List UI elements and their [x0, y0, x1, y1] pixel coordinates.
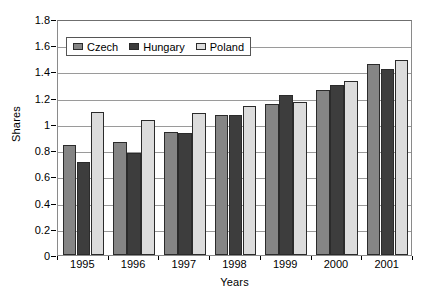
x-axis-tick-mark: [260, 256, 261, 260]
y-axis-tick-label: 1: [26, 120, 50, 130]
x-axis-tick-mark: [412, 256, 413, 260]
x-axis-tick-labels: 1995199619971998199920002001: [57, 258, 412, 274]
x-axis-tick-mark: [57, 256, 58, 260]
y-axis-tick-label: 0: [26, 251, 50, 261]
x-axis-tick-label: 1996: [113, 258, 153, 270]
x-axis-tick-label: 2001: [367, 258, 407, 270]
x-axis-tick-mark: [108, 256, 109, 260]
bar-hungary-1998: [229, 115, 243, 255]
x-axis-tick-mark: [361, 256, 362, 260]
x-axis-tick-label: 1999: [265, 258, 305, 270]
y-axis-tick-label: 1.8: [26, 15, 50, 25]
legend-label: Czech: [87, 41, 118, 53]
bar-hungary-1999: [279, 95, 293, 255]
x-axis-tick-label: 1997: [164, 258, 204, 270]
bar-poland-2001: [395, 60, 409, 255]
y-axis-tick-mark: [51, 20, 56, 21]
bar-czech-2000: [316, 90, 330, 255]
y-axis-tick-mark: [51, 230, 56, 231]
y-axis-tick-label: 0.2: [26, 225, 50, 235]
legend-item-poland: Poland: [196, 41, 244, 53]
legend-swatch-icon: [196, 43, 206, 50]
bar-chart: Shares 00.20.40.60.811.21.41.61.8 199519…: [0, 0, 428, 301]
bar-poland-2000: [344, 81, 358, 255]
y-axis-tick-label: 1.2: [26, 94, 50, 104]
x-axis-tick-label: 1995: [62, 258, 102, 270]
bar-hungary-2000: [330, 85, 344, 255]
y-axis-tick-label: 1.6: [26, 41, 50, 51]
y-axis-title: Shares: [10, 94, 22, 154]
bar-czech-1996: [113, 142, 127, 255]
bar-poland-1995: [91, 112, 105, 255]
y-axis-tick-label: 0.6: [26, 172, 50, 182]
x-axis-tick-mark: [158, 256, 159, 260]
x-axis-tick-mark: [311, 256, 312, 260]
y-axis-tick-mark: [51, 204, 56, 205]
legend-item-czech: Czech: [73, 41, 118, 53]
legend-label: Poland: [210, 41, 244, 53]
bar-czech-2001: [367, 64, 381, 255]
bar-poland-1997: [192, 113, 206, 255]
bar-poland-1996: [141, 120, 155, 255]
bar-hungary-2001: [381, 69, 395, 255]
bar-czech-1998: [215, 115, 229, 255]
y-axis-tick-labels: 00.20.40.60.811.21.41.61.8: [26, 0, 50, 301]
legend-label: Hungary: [143, 41, 185, 53]
y-axis-tick-label: 0.4: [26, 199, 50, 209]
y-axis-tick-mark: [51, 72, 56, 73]
bar-hungary-1996: [127, 153, 141, 255]
y-axis-tick-mark: [51, 99, 56, 100]
bar-poland-1999: [293, 102, 307, 255]
legend-swatch-icon: [129, 43, 139, 50]
bar-czech-1997: [164, 132, 178, 255]
bar-hungary-1995: [77, 162, 91, 255]
bar-poland-1998: [243, 106, 257, 255]
x-axis-title: Years: [57, 276, 412, 288]
legend-swatch-icon: [73, 43, 83, 50]
y-axis-tick-mark: [51, 46, 56, 47]
legend-item-hungary: Hungary: [129, 41, 185, 53]
x-axis-tick-label: 2000: [316, 258, 356, 270]
y-axis-tick-mark: [51, 151, 56, 152]
y-axis-tick-label: 1.4: [26, 67, 50, 77]
bar-czech-1999: [265, 104, 279, 255]
bar-czech-1995: [63, 145, 77, 255]
bars-layer: [58, 21, 411, 255]
y-axis-tick-label: 0.8: [26, 146, 50, 156]
y-axis-tick-mark: [51, 256, 56, 257]
y-axis-tick-mark: [51, 177, 56, 178]
y-axis-tick-mark: [51, 125, 56, 126]
bar-hungary-1997: [178, 133, 192, 255]
x-axis-tick-label: 1998: [215, 258, 255, 270]
x-axis-tick-mark: [209, 256, 210, 260]
chart-legend: CzechHungaryPoland: [66, 37, 251, 56]
